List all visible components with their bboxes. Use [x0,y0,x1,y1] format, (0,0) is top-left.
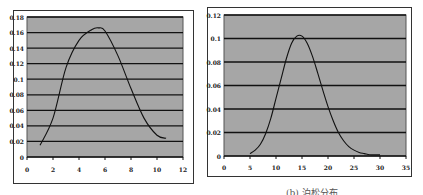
y-tick-label: 0.04 [9,122,24,129]
x-tick-label: 12 [179,166,187,173]
y-tick-label: 0.02 [9,138,24,145]
figure-caption: (b) 泊松分布 [286,186,338,195]
x-tick-label: 2 [51,166,55,173]
y-tick-label: 0.12 [206,12,221,19]
x-tick-label: 8 [129,166,133,173]
x-tick-label: 10 [153,166,161,173]
y-tick-label: 0 [20,154,24,161]
y-tick-label: 0.1 [14,76,24,83]
x-tick-label: 15 [298,164,306,171]
left-chart: 00.020.040.060.080.10.120.140.160.180246… [9,14,187,174]
x-tick-label: 30 [376,164,384,171]
y-tick-label: 0.04 [206,106,221,113]
y-tick-label: 0.06 [206,82,221,89]
y-tick-label: 0.06 [9,107,24,114]
x-tick-label: 20 [324,164,332,171]
charts-canvas: 00.020.040.060.080.10.120.140.160.180246… [0,0,423,195]
x-tick-label: 10 [272,164,280,171]
y-tick-label: 0.16 [9,29,24,36]
x-tick-label: 4 [77,166,81,173]
x-tick-label: 35 [402,164,410,171]
y-tick-label: 0.08 [206,59,221,66]
y-tick-label: 0.02 [206,129,221,136]
y-tick-label: 0.1 [211,35,221,42]
x-tick-label: 0 [25,166,29,173]
y-tick-label: 0.18 [9,14,24,21]
x-tick-label: 0 [222,164,226,171]
right-chart: 00.020.040.060.080.10.1205101520253035 [206,12,410,172]
plot-area [27,17,183,157]
y-tick-label: 0.12 [9,60,24,67]
x-tick-label: 25 [350,164,358,171]
y-tick-label: 0.08 [9,91,24,98]
y-tick-label: 0 [217,153,221,160]
y-tick-label: 0.14 [9,45,24,52]
x-tick-label: 6 [103,166,107,173]
x-tick-label: 5 [248,164,252,171]
